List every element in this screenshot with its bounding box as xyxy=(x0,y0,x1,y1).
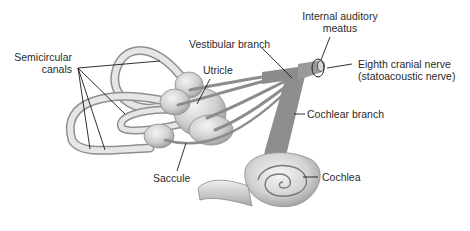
label-semicircular-canals: Semicircular canals xyxy=(6,51,72,75)
label-eighth-cranial-nerve-line1: Eighth cranial nerve xyxy=(358,58,455,70)
eighth-cranial-nerve-trunk xyxy=(298,60,325,80)
label-internal-auditory-meatus: Internal auditory meatus xyxy=(290,10,390,34)
label-eighth-cranial-nerve: Eighth cranial nerve (statoacoustic nerv… xyxy=(358,58,455,82)
diagram-artwork xyxy=(0,0,470,231)
label-saccule: Saccule xyxy=(153,172,190,184)
label-semicircular-canals-line2: canals xyxy=(6,63,72,75)
label-internal-auditory-meatus-line1: Internal auditory xyxy=(290,10,390,22)
label-vestibular-branch: Vestibular branch xyxy=(189,38,270,50)
label-semicircular-canals-line1: Semicircular xyxy=(6,51,72,63)
label-eighth-cranial-nerve-line2: (statoacoustic nerve) xyxy=(358,70,455,82)
label-cochlea: Cochlea xyxy=(322,171,361,183)
cochlea xyxy=(198,153,320,207)
label-utricle: Utricle xyxy=(203,64,233,76)
label-cochlear-branch: Cochlear branch xyxy=(307,108,384,120)
inner-ear-diagram: Semicircular canals Vestibular branch Ut… xyxy=(0,0,470,231)
label-internal-auditory-meatus-line2: meatus xyxy=(290,22,390,34)
